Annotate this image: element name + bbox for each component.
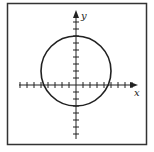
y-axis-label: y <box>80 10 87 21</box>
figure-border <box>8 4 147 145</box>
circle-graph-figure: x y <box>0 0 154 152</box>
x-axis-label: x <box>134 87 140 98</box>
